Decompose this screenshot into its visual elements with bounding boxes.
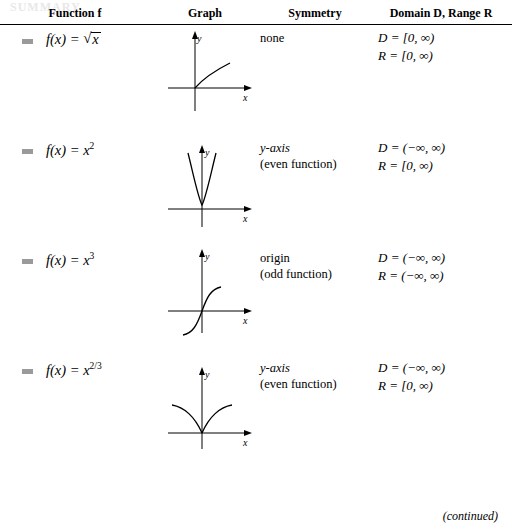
function-cell: f(x) = x3 [0, 245, 150, 355]
graph-cell: y x [150, 245, 260, 355]
x-axis-label: x [242, 437, 248, 448]
row-bullet-icon [22, 369, 33, 374]
symmetry-text-primary: none [260, 31, 284, 46]
range-text: R = [0, ∞) [378, 378, 433, 394]
column-header-graph-label: Graph [188, 6, 222, 20]
y-axis-label: y [204, 369, 210, 380]
table-body: f(x) = √x y x [0, 25, 512, 466]
symmetry-text-primary: y-axis [260, 361, 290, 376]
domain-text: D = (−∞, ∞) [378, 140, 445, 156]
table-header-row: Function f Graph Symmetry Domain D, Rang… [0, 6, 512, 25]
graph-sqrt-x: y x [150, 25, 260, 135]
row-bullet-icon [22, 39, 33, 44]
symmetry-cell: y-axis (even function) [260, 135, 370, 245]
column-header-symmetry: Symmetry [260, 6, 370, 25]
x-axis-arrowhead [244, 206, 252, 212]
graph-x-squared: y x [150, 135, 260, 245]
function-expression: f(x) = x3 [46, 251, 94, 269]
function-exponent: 2 [90, 141, 95, 151]
continued-note: (continued) [443, 509, 498, 524]
y-axis-label: y [204, 251, 210, 262]
function-expression-prefix: f(x) = [46, 31, 83, 47]
table-row: f(x) = √x y x [0, 25, 512, 136]
function-expression-prefix: f(x) = [46, 142, 83, 158]
function-expression: f(x) = x2/3 [46, 361, 102, 379]
curve-sqrt-x [195, 63, 230, 88]
function-exponent: 3 [90, 251, 95, 261]
domain-range-cell: D = (−∞, ∞) R = [0, ∞) [370, 355, 512, 465]
y-axis-label: y [196, 33, 202, 44]
domain-range-cell: D = [0, ∞) R = [0, ∞) [370, 25, 512, 136]
symmetry-cell: none [260, 25, 370, 136]
table-row: f(x) = x2/3 y x [0, 355, 512, 465]
symmetry-cell: y-axis (even function) [260, 355, 370, 465]
column-header-domain-range-label: Domain D, Range R [390, 6, 493, 20]
function-expression: f(x) = √x [46, 31, 99, 48]
table-row: f(x) = x3 y x [0, 245, 512, 355]
curve-right-branch [202, 405, 232, 433]
graph-cell: y x [150, 135, 260, 245]
column-header-graph: Graph [150, 6, 260, 25]
graph-cell: y x [150, 355, 260, 465]
function-summary-table: Function f Graph Symmetry Domain D, Rang… [0, 6, 512, 465]
x-axis-label: x [242, 315, 248, 326]
column-header-domain-range: Domain D, Range R [370, 6, 512, 25]
function-exponent: 2/3 [90, 361, 102, 371]
column-header-function: Function f [0, 6, 150, 25]
curve-left-branch [172, 405, 202, 433]
graph-x-two-thirds: y x [150, 355, 260, 465]
function-expression-prefix: f(x) = [46, 252, 83, 268]
x-axis-label: x [242, 213, 248, 224]
graph-cell: y x [150, 25, 260, 136]
y-axis-label: y [204, 147, 210, 158]
function-cell: f(x) = x2 [0, 135, 150, 245]
row-bullet-icon [22, 259, 33, 264]
symmetry-text-primary: origin [260, 251, 290, 266]
summary-page: SUMMARY Function f Graph Symmetry Domain… [0, 0, 512, 532]
symmetry-text-secondary: (even function) [260, 157, 337, 172]
function-cell: f(x) = √x [0, 25, 150, 136]
function-expression: f(x) = x2 [46, 141, 94, 159]
range-text: R = [0, ∞) [378, 48, 433, 64]
range-text: R = [0, ∞) [378, 158, 433, 174]
range-text: R = (−∞, ∞) [378, 268, 444, 284]
radicand: x [92, 31, 98, 47]
x-axis-arrowhead [244, 430, 252, 436]
symmetry-text-secondary: (odd function) [260, 267, 332, 282]
x-axis-label: x [242, 92, 248, 103]
row-bullet-icon [22, 149, 33, 154]
domain-text: D = (−∞, ∞) [378, 360, 445, 376]
x-axis-arrowhead [244, 308, 252, 314]
symmetry-cell: origin (odd function) [260, 245, 370, 355]
x-axis-arrowhead [244, 85, 252, 91]
table-row: f(x) = x2 y x [0, 135, 512, 245]
graph-x-cubed: y x [150, 245, 260, 355]
column-header-function-label: Function f [48, 6, 101, 20]
symmetry-text-secondary: (even function) [260, 377, 337, 392]
sqrt-symbol-icon: √x [83, 31, 98, 48]
function-expression-prefix: f(x) = [46, 362, 83, 378]
column-header-symmetry-label: Symmetry [288, 6, 341, 20]
domain-text: D = [0, ∞) [378, 30, 434, 46]
domain-text: D = (−∞, ∞) [378, 250, 445, 266]
domain-range-cell: D = (−∞, ∞) R = [0, ∞) [370, 135, 512, 245]
symmetry-text-primary: y-axis [260, 141, 290, 156]
function-cell: f(x) = x2/3 [0, 355, 150, 465]
domain-range-cell: D = (−∞, ∞) R = (−∞, ∞) [370, 245, 512, 355]
table-head: Function f Graph Symmetry Domain D, Rang… [0, 6, 512, 25]
